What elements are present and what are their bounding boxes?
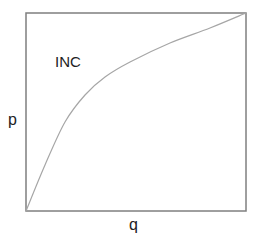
y-axis-label: p <box>8 112 17 128</box>
region-label-inc: INC <box>55 54 81 69</box>
boundary-curve <box>26 13 246 211</box>
x-axis-label: q <box>129 217 138 233</box>
plot-frame <box>26 13 246 211</box>
diagram-canvas <box>0 0 259 244</box>
